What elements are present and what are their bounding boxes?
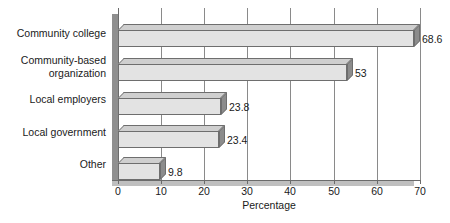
bar-face [118,163,160,180]
tick-label-30: 30 [232,185,262,197]
tick-label-20: 20 [189,185,219,197]
bar-face [118,64,347,81]
tick-mark-50 [334,180,335,184]
category-label-community-college: Community college [17,27,106,40]
bar-chart: Community college Community-based organi… [0,0,450,223]
bar-local-employers: 23.8 [118,98,221,115]
x-axis-ticks: 0 10 20 30 40 50 60 70 [118,180,420,200]
tick-mark-10 [161,180,162,184]
tick-label-0: 0 [103,185,133,197]
category-label-local-government: Local government [23,126,106,139]
bar-community-college: 68.6 [118,30,414,47]
tick-label-70: 70 [405,185,435,197]
bar-value-label: 9.8 [168,166,183,178]
bar-local-government: 23.4 [118,131,219,148]
plot-area: 68.6 53 23.8 23.4 9.8 [118,8,420,180]
bar-face [118,98,221,115]
tick-mark-40 [290,180,291,184]
gridline-70 [420,8,421,180]
bar-value-label: 23.8 [229,101,249,113]
category-label-other: Other [80,158,106,171]
category-label-community-based-organization: Community-based organization [21,54,106,79]
tick-mark-0 [118,180,119,184]
x-axis-title: Percentage [118,199,420,211]
tick-label-40: 40 [275,185,305,197]
bar-face [118,131,219,148]
tick-label-50: 50 [319,185,349,197]
category-label-local-employers: Local employers [30,93,106,106]
bar-other: 9.8 [118,163,160,180]
bar-value-label: 68.6 [422,33,442,45]
tick-label-10: 10 [146,185,176,197]
tick-mark-60 [377,180,378,184]
tick-label-60: 60 [362,185,392,197]
tick-mark-70 [420,180,421,184]
tick-mark-30 [247,180,248,184]
bar-value-label: 23.4 [227,134,247,146]
tick-mark-20 [204,180,205,184]
bar-community-based-organization: 53 [118,64,347,81]
bar-face [118,30,414,47]
category-axis-labels: Community college Community-based organi… [0,0,112,223]
bar-value-label: 53 [355,67,367,79]
